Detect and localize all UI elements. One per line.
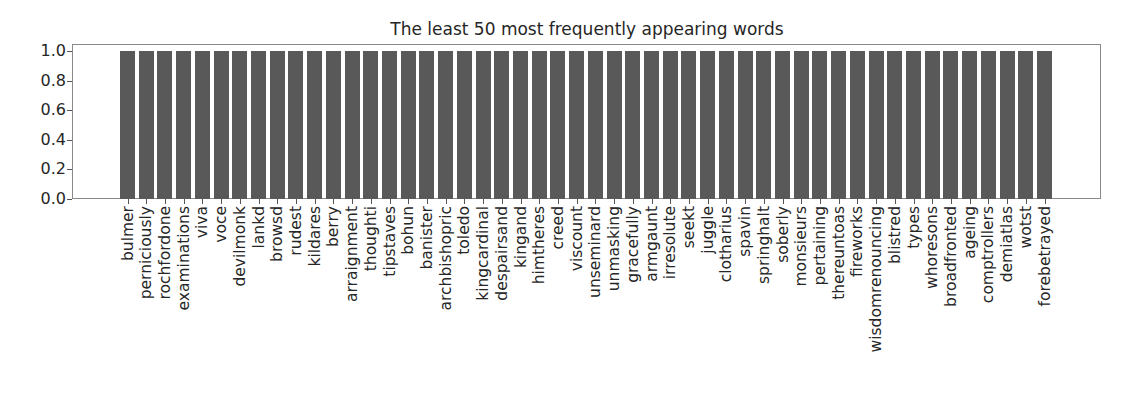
- bar: [363, 51, 378, 199]
- x-tick-label: fireworks: [849, 206, 865, 277]
- x-tick-mark: [1045, 199, 1046, 204]
- x-tick-mark: [427, 199, 428, 204]
- bar: [869, 51, 884, 199]
- bar: [326, 51, 341, 199]
- bar: [756, 51, 771, 199]
- x-tick-label: irresolute: [662, 206, 678, 279]
- x-tick-mark: [558, 199, 559, 204]
- x-tick-mark: [820, 199, 821, 204]
- x-tick-label: spavin: [737, 206, 753, 257]
- bar: [550, 51, 565, 199]
- y-tick-mark: [67, 81, 72, 82]
- x-tick-mark: [988, 199, 989, 204]
- x-tick-mark: [1026, 199, 1027, 204]
- bar: [681, 51, 696, 199]
- bar: [569, 51, 584, 199]
- bar: [1037, 51, 1052, 199]
- bar: [812, 51, 827, 199]
- x-tick-mark: [595, 199, 596, 204]
- x-tick-label: browsd: [269, 206, 285, 262]
- x-tick-mark: [539, 199, 540, 204]
- x-tick-mark: [1007, 199, 1008, 204]
- x-tick-label: himtheres: [531, 206, 547, 284]
- x-tick-label: viva: [194, 206, 210, 238]
- bar: [157, 51, 172, 199]
- x-tick-label: demiatlas: [999, 206, 1015, 282]
- x-tick-label: creed: [550, 206, 566, 249]
- x-tick-mark: [259, 199, 260, 204]
- x-tick-label: types: [906, 206, 922, 249]
- x-tick-label: perniciously: [138, 206, 154, 299]
- x-tick-mark: [839, 199, 840, 204]
- bar: [962, 51, 977, 199]
- y-tick-label: 0.6: [0, 100, 66, 119]
- bar: [120, 51, 135, 199]
- x-tick-mark: [633, 199, 634, 204]
- y-tick-label: 0.0: [0, 189, 66, 208]
- x-tick-mark: [614, 199, 615, 204]
- x-tick-label: seekt: [681, 206, 697, 248]
- bar: [270, 51, 285, 199]
- x-tick-label: unmasking: [606, 206, 622, 291]
- bar: [794, 51, 809, 199]
- x-tick-label: banister: [419, 206, 435, 270]
- bar: [738, 51, 753, 199]
- bar: [925, 51, 940, 199]
- x-tick-mark: [184, 199, 185, 204]
- x-tick-label: kingcardinal: [475, 206, 491, 301]
- bar: [625, 51, 640, 199]
- x-tick-mark: [577, 199, 578, 204]
- bar: [887, 51, 902, 199]
- bar: [401, 51, 416, 199]
- x-tick-mark: [951, 199, 952, 204]
- bar: [232, 51, 247, 199]
- x-tick-mark: [371, 199, 372, 204]
- bar: [906, 51, 921, 199]
- x-tick-mark: [670, 199, 671, 204]
- x-tick-label: forebetrayed: [1037, 206, 1053, 306]
- y-tick-mark: [67, 51, 72, 52]
- x-tick-mark: [970, 199, 971, 204]
- x-tick-label: monsieurs: [793, 206, 809, 287]
- bar: [176, 51, 191, 199]
- x-tick-mark: [146, 199, 147, 204]
- x-tick-label: kildares: [307, 206, 323, 267]
- chart-title: The least 50 most frequently appearing w…: [72, 19, 1102, 39]
- x-tick-mark: [446, 199, 447, 204]
- x-tick-label: clotharius: [718, 206, 734, 282]
- x-tick-label: juggle: [700, 206, 716, 254]
- bar: [288, 51, 303, 199]
- x-tick-mark: [240, 199, 241, 204]
- x-tick-mark: [483, 199, 484, 204]
- bar: [850, 51, 865, 199]
- x-tick-mark: [801, 199, 802, 204]
- x-tick-mark: [914, 199, 915, 204]
- x-tick-label: tipstaves: [382, 206, 398, 277]
- x-tick-label: armgaunt: [644, 206, 660, 282]
- x-tick-label: unseminard: [587, 206, 603, 298]
- x-tick-label: wotst: [1018, 206, 1034, 248]
- x-tick-mark: [521, 199, 522, 204]
- x-tick-label: rochfordone: [157, 206, 173, 300]
- bar: [700, 51, 715, 199]
- x-tick-mark: [857, 199, 858, 204]
- x-tick-mark: [390, 199, 391, 204]
- x-tick-mark: [745, 199, 746, 204]
- bar: [457, 51, 472, 199]
- bar: [644, 51, 659, 199]
- x-tick-mark: [165, 199, 166, 204]
- bar: [438, 51, 453, 199]
- bar: [419, 51, 434, 199]
- x-tick-label: examinations: [176, 206, 192, 310]
- y-tick-label: 0.4: [0, 130, 66, 149]
- x-tick-label: broadfronted: [943, 206, 959, 307]
- x-tick-mark: [464, 199, 465, 204]
- x-tick-label: rudest: [288, 206, 304, 256]
- bar: [532, 51, 547, 199]
- x-tick-label: arraignment: [344, 206, 360, 302]
- y-tick-label: 1.0: [0, 41, 66, 60]
- x-tick-mark: [783, 199, 784, 204]
- bar: [719, 51, 734, 199]
- x-tick-label: berry: [325, 206, 341, 247]
- x-tick-label: ageing: [962, 206, 978, 259]
